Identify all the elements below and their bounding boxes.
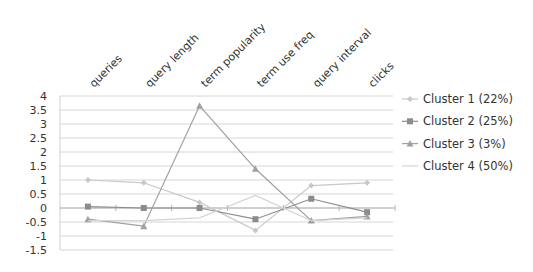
legend-label: Cluster 1 (22%): [423, 92, 513, 106]
y-tick-label: -1: [36, 230, 47, 243]
y-tick-label: 2: [40, 146, 47, 159]
category-label: queries: [87, 52, 125, 90]
series-lines: [84, 102, 370, 233]
triangle-marker: [196, 102, 203, 109]
y-tick-label: 4: [40, 90, 47, 103]
y-tick-label: 0.5: [30, 188, 48, 201]
square-marker: [197, 205, 203, 211]
diamond-marker: [364, 180, 370, 186]
diamond-marker: [197, 199, 203, 205]
diamond-marker: [407, 96, 413, 102]
gridlines: [60, 96, 393, 250]
legend: Cluster 1 (22%)Cluster 2 (25%)Cluster 3 …: [402, 92, 513, 173]
legend-item: Cluster 3 (3%): [402, 137, 506, 151]
category-label: term use freq: [254, 28, 316, 90]
y-tick-label: 2.5: [30, 132, 48, 145]
y-tick-label: -1.5: [26, 244, 47, 257]
category-label: query interval: [310, 26, 374, 90]
legend-label: Cluster 3 (3%): [423, 137, 506, 151]
category-labels: queriesquery lengthterm popularityterm u…: [87, 20, 397, 90]
line-chart: 43.532.521.510.50-0.5-1-1.5 queriesquery…: [0, 0, 533, 272]
square-marker: [141, 205, 147, 211]
diamond-marker: [85, 177, 91, 183]
square-marker: [252, 216, 258, 222]
category-label: query length: [143, 31, 202, 90]
diamond-marker: [141, 180, 147, 186]
y-tick-label: 3: [40, 118, 47, 131]
y-tick-label: 3.5: [30, 104, 48, 117]
legend-item: Cluster 4 (50%): [402, 159, 513, 173]
y-tick-label: 0: [40, 202, 47, 215]
y-axis-ticks: 43.532.521.510.50-0.5-1-1.5: [26, 90, 47, 257]
legend-label: Cluster 2 (25%): [423, 114, 513, 128]
square-marker: [85, 204, 91, 210]
y-tick-label: 1: [40, 174, 47, 187]
legend-item: Cluster 2 (25%): [402, 114, 513, 128]
y-tick-label: -0.5: [26, 216, 47, 229]
y-tick-label: 1.5: [30, 160, 48, 173]
legend-label: Cluster 4 (50%): [423, 159, 513, 173]
category-label: clicks: [366, 59, 397, 90]
square-marker: [308, 196, 314, 202]
zero-axis: [60, 205, 395, 211]
legend-item: Cluster 1 (22%): [402, 92, 513, 106]
square-marker: [407, 118, 413, 124]
